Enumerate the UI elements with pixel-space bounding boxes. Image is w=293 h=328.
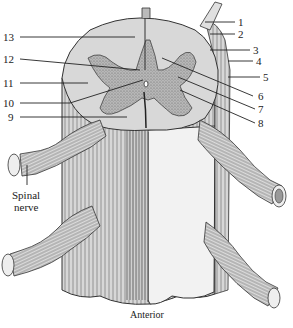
label-4: 4	[256, 55, 262, 67]
labels-right: 1 2 3 4 5 6 7 8	[238, 16, 269, 129]
label-10: 10	[3, 97, 15, 109]
label-9: 9	[8, 111, 14, 123]
spinal-nerve-caption: Spinal nerve	[12, 189, 40, 213]
label-8: 8	[258, 117, 264, 129]
spinal-nerve-label-line2: nerve	[14, 201, 39, 213]
spinal-nerve-label-line1: Spinal	[12, 189, 40, 201]
dura-flap	[148, 126, 215, 304]
spinal-cord-diagram: 13 12 11 10 9 1 2 3 4 5 6 7 8 Spinal ner…	[0, 0, 293, 328]
label-13: 13	[3, 31, 15, 43]
label-12: 12	[3, 53, 14, 65]
label-5: 5	[263, 71, 269, 83]
label-1: 1	[238, 16, 244, 28]
label-7: 7	[258, 103, 264, 115]
cross-section	[62, 2, 222, 131]
central-canal	[144, 81, 148, 87]
dorsal-root-stub	[200, 2, 222, 30]
label-2: 2	[238, 28, 244, 40]
label-11: 11	[3, 77, 14, 89]
orientation-caption: Anterior	[130, 309, 165, 320]
label-6: 6	[258, 90, 264, 102]
labels-left: 13 12 11 10 9	[3, 31, 15, 123]
